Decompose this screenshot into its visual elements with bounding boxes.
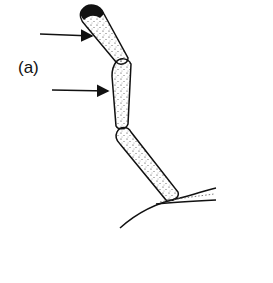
middle-segment: [112, 59, 131, 129]
arrow-icon-upper: [40, 34, 92, 36]
appendage-drawing: [0, 0, 273, 283]
arrow-icon-lower: [52, 90, 108, 91]
illustration-figure: (a): [0, 0, 273, 283]
apical-segment: [80, 5, 128, 64]
basal-segment: [116, 128, 178, 201]
